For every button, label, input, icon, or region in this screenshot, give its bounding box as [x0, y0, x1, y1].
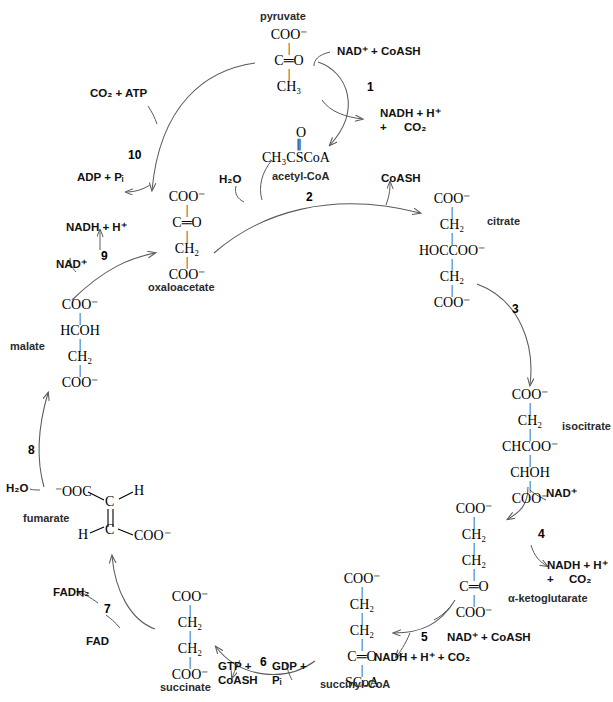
acetylcoa-backbone: CH₃CSCoA	[262, 149, 372, 166]
feeder-step-2-out	[386, 182, 390, 205]
feeder-step-10-in	[148, 106, 157, 124]
fumarate-right-carboxyl: COO⁻	[134, 527, 171, 544]
structure-oxaloacetate: COO⁻ | C═O | CH₂ | COO⁻	[155, 188, 219, 283]
step-number-8: 8	[28, 443, 35, 457]
cofactor-step-10-out: ADP + Pᵢ	[77, 170, 123, 184]
cofactor-step-2-in: H₂O	[219, 172, 241, 186]
cofactor-step-1-out-line1: NADH + H⁺	[380, 107, 441, 119]
citric-acid-cycle-diagram: pyruvate COO⁻ | C═O | CH₃ O ∥ CH₃CSCoA a…	[0, 0, 613, 702]
bond-line: |	[330, 613, 394, 622]
label-pyruvate: pyruvate	[260, 10, 306, 22]
arc-step-10	[152, 63, 255, 190]
cofactor-step-4-in: NAD⁺	[546, 486, 577, 500]
step-number-7: 7	[104, 602, 111, 616]
bond-line: |	[158, 605, 222, 614]
step-number-9: 9	[101, 249, 108, 263]
step-number-6: 6	[260, 655, 267, 669]
structure-succinyl-coa: COO⁻ | CH₂ | CH₂ | C═O | SCoA	[330, 570, 394, 691]
fumarate-bond-right	[118, 529, 133, 535]
label-citrate: citrate	[487, 215, 520, 227]
step-number-5: 5	[421, 630, 428, 644]
acetylcoa-double-bond: ∥	[262, 140, 372, 149]
cofactor-step-2-out: CoASH	[381, 171, 421, 185]
bond-line: |	[158, 657, 222, 666]
bond-line: |	[158, 631, 222, 640]
bond-line: |	[442, 595, 506, 604]
fumarate-left-carboxyl: ⁻OOC	[55, 483, 92, 500]
step-number-3: 3	[512, 302, 519, 316]
bond-line: |	[492, 429, 568, 438]
bond-line: |	[404, 285, 500, 294]
cofactor-step-9-out: NADH + H⁺	[66, 220, 127, 234]
malate-row-3: COO⁻	[48, 374, 112, 391]
bond-line: |	[442, 517, 506, 526]
cofactor-step-1-out-line3: CO₂	[404, 121, 426, 133]
structure-fumarate: ⁻OOC C H C H COO⁻	[0, 0, 200, 60]
cofactor-step-9-in-text: NAD⁺	[56, 258, 87, 270]
feeder-step-4-out	[531, 545, 547, 566]
cofactor-step-4-in-text: NAD⁺	[546, 487, 577, 499]
bond-line: |	[155, 257, 219, 266]
bond-line: |	[404, 233, 500, 242]
fumarate-top-carbon: C	[105, 494, 114, 510]
label-succinyl-coa: succinyl-CoA	[320, 678, 390, 690]
structure-alpha-ketoglutarate: COO⁻ | CH₂ | CH₂ | C═O | COO⁻	[442, 500, 506, 621]
label-succinate: succinate	[160, 681, 211, 693]
bond-line: |	[492, 455, 568, 464]
bond-line: |	[48, 313, 112, 322]
label-oxaloacetate: oxaloacetate	[148, 281, 215, 293]
cofactor-step-7-out-text: FADH₂	[53, 586, 89, 598]
cofactor-step-9-in: NAD⁺	[56, 257, 87, 271]
bond-line: |	[155, 205, 219, 214]
cofactor-step-8-in: H₂O	[6, 481, 28, 495]
feeder-step-10-out	[126, 185, 150, 192]
label-malate: malate	[10, 340, 45, 352]
cofactor-step-1-in-text: NAD⁺ + CoASH	[337, 45, 421, 57]
label-alpha-ketoglutarate: α-ketoglutarate	[508, 592, 588, 604]
cofactor-step-1-out-line2: +	[380, 121, 387, 133]
structure-pyruvate: COO⁻ | C═O | CH₃	[258, 26, 320, 95]
step-number-4: 4	[538, 527, 545, 541]
citrate-row-4: COO⁻	[404, 294, 500, 311]
cofactor-step-6-out-line1: GTP +	[218, 660, 251, 672]
fumarate-top-hydrogen: H	[134, 483, 144, 499]
feeder-step-8-in	[30, 489, 40, 490]
acetylcoa-carbonyl-o: O	[262, 126, 372, 140]
bond-line: |	[155, 231, 219, 240]
bond-line: |	[442, 569, 506, 578]
step-number-1: 1	[367, 80, 374, 94]
cofactor-step-5-in: NAD⁺ + CoASH	[447, 630, 531, 644]
pyruvate-row-2: CH₃	[258, 78, 320, 95]
step-number-2: 2	[306, 190, 313, 204]
label-acetyl-coa: acetyl-CoA	[272, 170, 329, 182]
structure-acetyl-coa: O ∥ CH₃CSCoA	[262, 126, 372, 166]
arc-step-7	[112, 556, 155, 629]
cofactor-step-2-in-text: H₂O	[219, 173, 241, 185]
fumarate-bottom-carbon: C	[105, 522, 114, 538]
cofactor-step-5-in-text: NAD⁺ + CoASH	[447, 631, 531, 643]
feeder-step-1-out	[322, 100, 362, 119]
bond-line: |	[258, 43, 320, 52]
feeder-acetylcoa-in	[260, 160, 272, 200]
cofactor-step-6-in-line1: GDP +	[272, 660, 307, 672]
fumarate-bottom-hydrogen: H	[78, 527, 88, 543]
cofactor-step-7-in: FAD	[86, 634, 109, 648]
cofactor-step-10-in: CO₂ + ATP	[90, 86, 147, 100]
cofactor-step-8-in-text: H₂O	[6, 482, 28, 494]
cofactor-step-6-in-line2: Pᵢ	[272, 674, 281, 686]
cofactor-step-5-out-text: NADH + H⁺ + CO₂	[374, 651, 470, 663]
bond-line: |	[404, 259, 500, 268]
bond-line: |	[442, 543, 506, 552]
fumarate-bond-top-h	[119, 492, 133, 499]
cofactor-step-10-in-text: CO₂ + ATP	[90, 87, 147, 99]
cofactor-step-5-out: NADH + H⁺ + CO₂	[374, 650, 470, 664]
bond-line: |	[48, 365, 112, 374]
structure-succinate: COO⁻ | CH₂ | CH₂ | COO⁻	[158, 588, 222, 683]
cofactor-step-6-out: GTP + CoASH	[218, 659, 258, 687]
bond-line: |	[404, 207, 500, 216]
arc-step-2	[214, 204, 420, 253]
cofactor-step-4-out-line2: +	[547, 573, 554, 585]
cofactor-step-1-out: NADH + H⁺ + CO₂	[380, 106, 441, 134]
cofactor-step-4-out-line1: NADH + H⁺	[547, 559, 608, 571]
cofactor-step-1-in: NAD⁺ + CoASH	[337, 44, 421, 58]
